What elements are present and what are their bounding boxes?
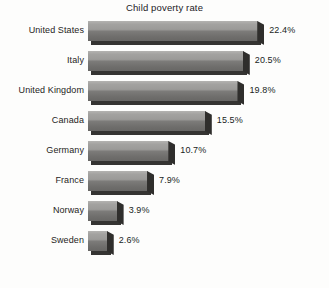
bar-end-cap — [147, 171, 154, 195]
bar-row: United Kingdom19.8% — [0, 81, 329, 107]
bar-face — [88, 21, 258, 41]
bar-end-cap — [205, 111, 212, 135]
category-label: Germany — [0, 145, 84, 155]
category-label: Sweden — [0, 235, 84, 245]
bar-shadow — [91, 71, 247, 75]
value-label: 3.9% — [129, 205, 150, 215]
bar-shadow — [91, 101, 241, 105]
bar-face — [88, 201, 118, 221]
bar-shadow — [91, 161, 172, 165]
value-label: 15.5% — [217, 115, 243, 125]
bar-face — [88, 111, 206, 131]
chart-title: Child poverty rate — [0, 2, 329, 13]
category-label: United Kingdom — [0, 85, 84, 95]
bar-row: Sweden2.6% — [0, 231, 329, 257]
bar-face — [88, 231, 108, 251]
bar-face — [88, 141, 169, 161]
value-label: 19.8% — [249, 85, 275, 95]
bar — [88, 231, 108, 255]
bar-shadow — [91, 191, 151, 195]
bar-face — [88, 81, 238, 101]
bar-row: France7.9% — [0, 171, 329, 197]
bar-shadow — [91, 221, 121, 225]
bar-end-cap — [107, 231, 114, 255]
bar-face — [88, 171, 148, 191]
value-label: 2.6% — [119, 235, 140, 245]
bar — [88, 81, 238, 105]
bar-end-cap — [243, 51, 250, 75]
bar-end-cap — [168, 141, 175, 165]
category-label: France — [0, 175, 84, 185]
plot-area: United States22.4%Italy20.5%United Kingd… — [0, 21, 329, 273]
bar-end-cap — [237, 81, 244, 105]
bar — [88, 51, 244, 75]
child-poverty-bar-chart: Child poverty rate United States22.4%Ita… — [0, 0, 329, 288]
bar-row: Germany10.7% — [0, 141, 329, 167]
bar-shadow — [91, 41, 261, 45]
bar-end-cap — [117, 201, 124, 225]
bar — [88, 141, 169, 165]
category-label: Norway — [0, 205, 84, 215]
bar — [88, 171, 148, 195]
value-label: 20.5% — [255, 55, 281, 65]
bar-row: Norway3.9% — [0, 201, 329, 227]
value-label: 22.4% — [269, 25, 295, 35]
category-label: United States — [0, 25, 84, 35]
value-label: 7.9% — [159, 175, 180, 185]
bar-row: United States22.4% — [0, 21, 329, 47]
category-label: Canada — [0, 115, 84, 125]
bar-end-cap — [257, 21, 264, 45]
bar — [88, 111, 206, 135]
bar-row: Italy20.5% — [0, 51, 329, 77]
bar-face — [88, 51, 244, 71]
bar-shadow — [91, 131, 209, 135]
bar — [88, 21, 258, 45]
value-label: 10.7% — [180, 145, 206, 155]
bar-row: Canada15.5% — [0, 111, 329, 137]
category-label: Italy — [0, 55, 84, 65]
bar — [88, 201, 118, 225]
